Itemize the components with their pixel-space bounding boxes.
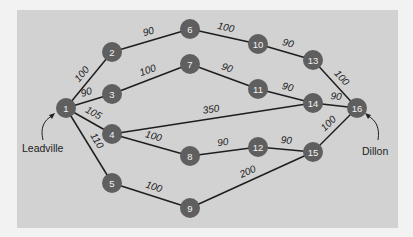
sink-annotation: Dillon	[362, 113, 388, 157]
node-label: 8	[187, 151, 192, 162]
node-16: 16	[347, 98, 367, 118]
node-label: 12	[253, 142, 264, 153]
sink-label: Dillon	[362, 145, 388, 157]
node-8: 8	[180, 146, 200, 166]
source-annotation: Leadville	[22, 113, 64, 154]
node-11: 11	[248, 79, 268, 99]
node-4: 4	[102, 124, 122, 144]
node-label: 7	[187, 59, 192, 70]
node-10: 10	[248, 34, 268, 54]
node-label: 1	[63, 103, 68, 114]
network-diagram: 1009010511090100350100100100909020090909…	[0, 0, 413, 237]
node-15: 15	[303, 142, 323, 162]
edge-weight-label: 90	[79, 85, 93, 99]
edge-weight-label: 200	[237, 163, 258, 181]
node-14: 14	[303, 93, 323, 113]
node-label: 4	[109, 129, 114, 140]
edge-weight-label: 90	[217, 136, 230, 148]
edge-weight-label: 100	[217, 20, 236, 34]
edge-weight-label: 90	[220, 60, 235, 74]
node-label: 14	[308, 98, 319, 109]
edge-weight-label: 90	[281, 36, 295, 50]
edge-weight-label: 350	[202, 102, 221, 115]
source-arrowhead-icon	[49, 113, 55, 119]
node-5: 5	[102, 173, 122, 193]
edge-weight-label: 100	[138, 62, 158, 78]
node-label: 3	[109, 89, 114, 100]
source-arrow-icon	[42, 116, 52, 140]
sink-arrow-icon	[368, 116, 379, 140]
edge-9-15	[190, 152, 313, 208]
edge-1-5	[66, 108, 112, 183]
node-7: 7	[180, 54, 200, 74]
node-label: 2	[109, 47, 114, 58]
node-label: 16	[352, 103, 363, 114]
node-1: 1	[56, 98, 76, 118]
edge-weight-label: 90	[141, 24, 155, 38]
node-label: 11	[253, 84, 263, 95]
edge-weight-label: 100	[144, 128, 163, 143]
edge-weight-label: 100	[144, 179, 164, 195]
sink-arrowhead-icon	[365, 113, 371, 119]
edge-weight-label: 90	[330, 90, 343, 102]
node-label: 13	[308, 55, 319, 66]
edge-8-12	[190, 147, 258, 156]
node-12: 12	[248, 137, 268, 157]
edge-weight-label: 90	[280, 134, 293, 146]
node-13: 13	[303, 50, 323, 70]
node-label: 5	[109, 178, 114, 189]
node-6: 6	[180, 19, 200, 39]
node-2: 2	[102, 42, 122, 62]
node-label: 6	[187, 24, 192, 35]
node-label: 9	[187, 203, 192, 214]
node-9: 9	[180, 198, 200, 218]
edge-weight-label: 90	[281, 80, 295, 94]
source-label: Leadville	[22, 142, 64, 154]
node-label: 15	[308, 147, 319, 158]
node-3: 3	[102, 84, 122, 104]
node-label: 10	[253, 39, 264, 50]
